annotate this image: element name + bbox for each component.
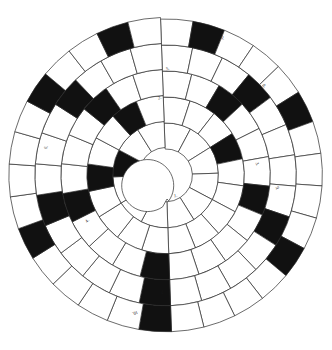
puzzle-cell[interactable] bbox=[269, 155, 296, 186]
clue-number-10: 10. bbox=[131, 309, 138, 315]
clue-number-2: 2. bbox=[157, 96, 161, 101]
circular-crossword-puzzle: 1.2.3.4.5.6.7.8.9.10.11. bbox=[0, 0, 332, 350]
puzzle-cell[interactable] bbox=[171, 302, 204, 332]
puzzle-cell[interactable] bbox=[61, 164, 88, 194]
clue-number-7: 7. bbox=[160, 289, 164, 294]
puzzle-cell[interactable] bbox=[243, 157, 270, 187]
puzzle-cell[interactable] bbox=[295, 153, 322, 186]
puzzle-grid-svg bbox=[0, 0, 332, 350]
clue-number-9: 9. bbox=[274, 186, 279, 190]
blocked-cell bbox=[139, 304, 172, 332]
puzzle-cell[interactable] bbox=[9, 164, 36, 197]
clue-number-5: 5. bbox=[166, 67, 170, 72]
puzzle-cell[interactable] bbox=[35, 164, 62, 196]
clue-number-1: 1. bbox=[174, 194, 178, 199]
puzzle-cell[interactable] bbox=[128, 18, 162, 48]
puzzle-cell[interactable] bbox=[161, 19, 194, 47]
